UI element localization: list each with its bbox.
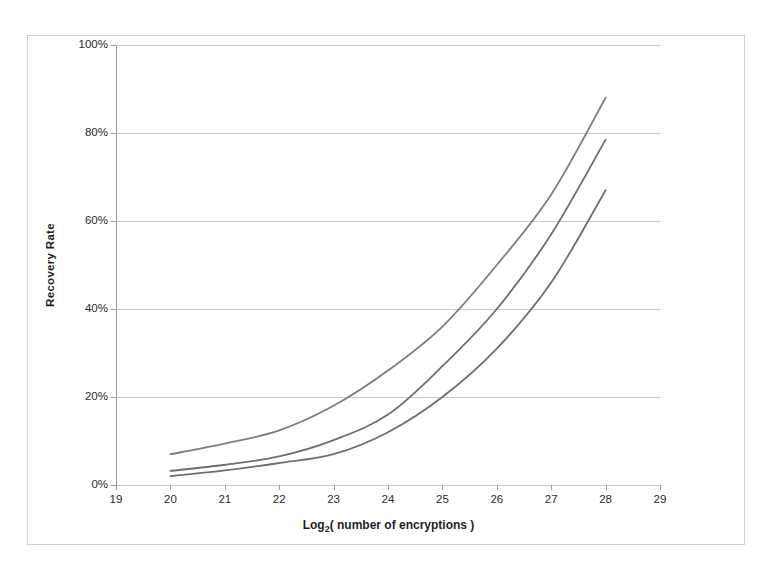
x-tick-label-19: 19 — [110, 494, 123, 506]
series-line-upper-curve — [170, 98, 605, 454]
y-tick-label: 60% — [85, 215, 108, 227]
y-tick-label: 40% — [85, 303, 108, 315]
x-tick-mark-25 — [442, 485, 443, 490]
x-axis-title-rest: ( number of encryptions ) — [330, 518, 475, 532]
chart-figure: Recovery Rate 0%20%40%60%80%100% 1920212… — [27, 35, 745, 545]
y-axis-title-text: Recovery Rate — [44, 223, 56, 307]
plot-area: 0%20%40%60%80%100% — [116, 45, 660, 485]
y-axis-title: Recovery Rate — [42, 45, 58, 485]
y-tick-label: 0% — [91, 479, 108, 491]
y-tick-label: 80% — [85, 127, 108, 139]
x-tick-label-27: 27 — [545, 494, 558, 506]
x-tick-mark-28 — [606, 485, 607, 490]
x-tick-label-23: 23 — [327, 494, 340, 506]
x-tick-mark-26 — [497, 485, 498, 490]
series-line-lower-curve — [170, 190, 605, 476]
x-tick-label-20: 20 — [164, 494, 177, 506]
y-tick-label: 20% — [85, 391, 108, 403]
x-tick-label-22: 22 — [273, 494, 286, 506]
x-tick-label-25: 25 — [436, 494, 449, 506]
x-tick-mark-21 — [225, 485, 226, 490]
x-axis-title-base: Log — [303, 518, 325, 532]
x-tick-mark-20 — [170, 485, 171, 490]
y-tick-label: 100% — [79, 39, 108, 51]
x-tick-label-29: 29 — [654, 494, 667, 506]
series-lines-group — [116, 45, 660, 485]
x-tick-label-28: 28 — [599, 494, 612, 506]
x-tick-mark-27 — [551, 485, 552, 490]
x-tick-label-24: 24 — [382, 494, 395, 506]
x-tick-mark-22 — [279, 485, 280, 490]
x-tick-mark-24 — [388, 485, 389, 490]
x-axis-title: Log2( number of encryptions ) — [116, 518, 661, 534]
x-tick-label-21: 21 — [218, 494, 231, 506]
x-tick-label-26: 26 — [490, 494, 503, 506]
x-tick-mark-29 — [660, 485, 661, 490]
x-tick-mark-19 — [116, 485, 117, 490]
series-line-middle-curve — [170, 140, 605, 471]
x-tick-mark-23 — [334, 485, 335, 490]
